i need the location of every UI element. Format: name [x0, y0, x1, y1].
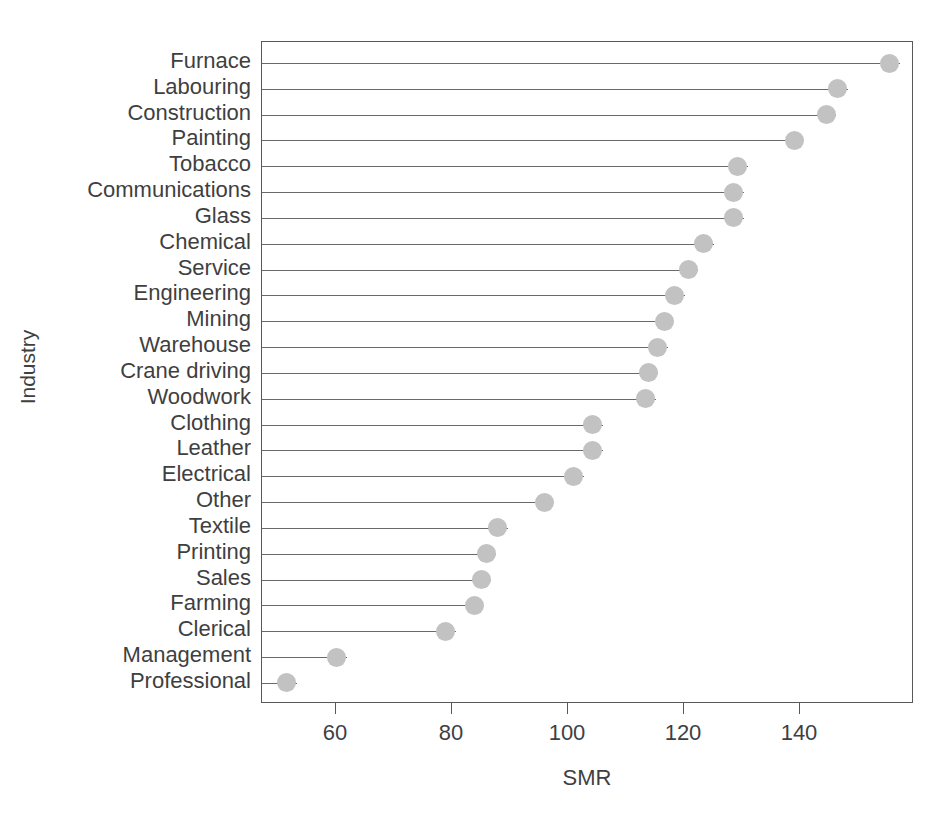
plot-panel: [261, 41, 913, 703]
x-axis-tick-label: 60: [295, 720, 375, 746]
data-point: [724, 183, 743, 202]
y-axis-tick-label: Engineering: [134, 282, 251, 304]
dot-plot-row-line: [262, 528, 508, 529]
x-axis-tick-mark: [799, 703, 800, 714]
dot-plot-row-line: [262, 476, 584, 477]
dot-plot-row-line: [262, 270, 698, 271]
data-point: [472, 570, 491, 589]
y-axis-tick-label: Glass: [195, 205, 251, 227]
y-axis-tick-label: Communications: [87, 179, 251, 201]
y-axis-tick-label: Sales: [196, 567, 251, 589]
dot-plot-row-line: [262, 321, 674, 322]
data-point: [465, 596, 484, 615]
dot-plot-row-line: [262, 631, 456, 632]
data-point: [636, 389, 655, 408]
dot-plot-row-line: [262, 373, 658, 374]
x-axis-tick-label: 80: [411, 720, 491, 746]
y-axis-tick-label: Painting: [171, 127, 251, 149]
data-point: [679, 260, 698, 279]
x-axis-tick-label: 120: [643, 720, 723, 746]
x-axis-tick-label: 140: [759, 720, 839, 746]
y-axis-tick-label: Warehouse: [139, 334, 251, 356]
dot-plot-row-line: [262, 425, 603, 426]
y-axis-tick-label: Farming: [170, 592, 251, 614]
data-point: [639, 363, 658, 382]
x-axis-tick-label: 100: [527, 720, 607, 746]
dot-plot-row-line: [262, 295, 685, 296]
x-axis-title: SMR: [261, 765, 913, 791]
dot-plot-row-line: [262, 554, 496, 555]
y-axis-tick-label: Electrical: [162, 463, 251, 485]
dot-plot-row-line: [262, 140, 804, 141]
data-point: [535, 493, 554, 512]
dot-plot-row-line: [262, 450, 603, 451]
dot-plot-row-line: [262, 218, 744, 219]
data-point: [724, 208, 743, 227]
data-point: [817, 105, 836, 124]
y-axis-labels: FurnaceLabouringConstructionPaintingToba…: [0, 41, 251, 703]
dot-plot-row-line: [262, 244, 714, 245]
data-point: [327, 648, 346, 667]
y-axis-tick-label: Construction: [127, 102, 251, 124]
data-point: [564, 467, 583, 486]
data-point: [436, 622, 455, 641]
y-axis-tick-label: Professional: [130, 670, 251, 692]
data-point: [477, 544, 496, 563]
data-point: [785, 131, 804, 150]
y-axis-tick-label: Crane driving: [120, 360, 251, 382]
dot-plot-row-line: [262, 399, 656, 400]
dot-plot-row-line: [262, 166, 748, 167]
data-point: [583, 415, 602, 434]
data-point: [277, 673, 296, 692]
data-point: [648, 338, 667, 357]
data-point: [655, 312, 674, 331]
y-axis-tick-label: Textile: [189, 515, 251, 537]
dot-plot-row-line: [262, 580, 491, 581]
data-point: [488, 518, 507, 537]
dot-plot-row-line: [262, 192, 744, 193]
y-axis-tick-label: Printing: [176, 541, 251, 563]
dot-plot-row-line: [262, 347, 668, 348]
y-axis-tick-label: Furnace: [170, 50, 251, 72]
data-point: [880, 54, 899, 73]
data-point: [665, 286, 684, 305]
dot-plot-row-line: [262, 115, 836, 116]
dot-plot-row-line: [262, 502, 554, 503]
y-axis-tick-label: Management: [123, 644, 251, 666]
dot-plot-row-line: [262, 89, 848, 90]
x-axis-tick-mark: [683, 703, 684, 714]
data-point: [728, 157, 747, 176]
y-axis-tick-label: Woodwork: [147, 386, 251, 408]
y-axis-tick-label: Leather: [176, 437, 251, 459]
dot-plot-row-line: [262, 605, 484, 606]
data-point: [828, 79, 847, 98]
y-axis-tick-label: Tobacco: [169, 153, 251, 175]
dot-plot-figure: Industry FurnaceLabouringConstructionPai…: [0, 0, 935, 820]
x-axis-tick-mark: [451, 703, 452, 714]
y-axis-tick-label: Service: [178, 257, 251, 279]
y-axis-tick-label: Clothing: [170, 412, 251, 434]
data-point: [583, 441, 602, 460]
dot-plot-row-line: [262, 63, 900, 64]
data-point: [694, 234, 713, 253]
x-axis-tick-mark: [335, 703, 336, 714]
y-axis-tick-label: Chemical: [159, 231, 251, 253]
x-axis-tick-mark: [567, 703, 568, 714]
y-axis-tick-label: Labouring: [153, 76, 251, 98]
y-axis-tick-label: Clerical: [178, 618, 251, 640]
y-axis-tick-label: Mining: [186, 308, 251, 330]
y-axis-tick-label: Other: [196, 489, 251, 511]
